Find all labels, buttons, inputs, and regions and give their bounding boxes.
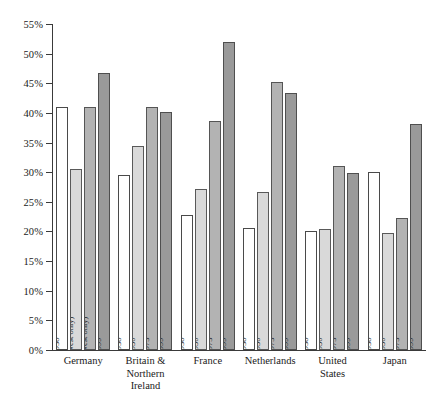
bar: 1973 — [146, 107, 158, 350]
bar: 1973 (West only) — [84, 107, 96, 350]
bar-year-label: 1973 (West only) — [84, 317, 90, 350]
bar-year-label: 1938 — [118, 338, 124, 351]
bar: 1950 — [132, 146, 144, 350]
bar: 1999 — [285, 93, 297, 350]
bar-year-label: 1999 — [347, 338, 353, 351]
y-tick-label: 25% — [23, 196, 43, 207]
y-tick-label: 5% — [29, 315, 43, 326]
bar-year-label: 1950 — [319, 338, 325, 351]
bar-year-label: 1938 — [305, 338, 311, 351]
bar: 1999 — [98, 73, 110, 350]
y-tick-label: 40% — [23, 107, 43, 118]
bar: 1950 — [319, 229, 331, 351]
category-label: France — [177, 355, 239, 393]
bar-group: 1938195019731999 — [364, 24, 426, 350]
bar-group: 19381950 (West only)1973 (West only)1999 — [52, 24, 114, 350]
bar: 1973 — [271, 82, 283, 351]
bar: 1973 — [333, 166, 345, 350]
bar: 1950 (West only) — [70, 169, 82, 350]
bar-year-label: 1973 — [333, 338, 339, 351]
bar: 1950 — [195, 189, 207, 350]
bar-year-label: 1938 — [181, 338, 187, 351]
category-axis-labels: GermanyBritain &NorthernIrelandFranceNet… — [52, 355, 426, 393]
category-label: Netherlands — [239, 355, 301, 393]
bar-year-label: 1950 — [257, 338, 263, 351]
bar-year-label: 1973 — [271, 338, 277, 351]
y-tick-label: 0% — [29, 345, 43, 356]
bar-year-label: 1973 — [396, 338, 402, 351]
bar: 1938 — [56, 107, 68, 350]
bar-chart: 55%50%45%40%35%30%25%20%15%10%5%0% 19381… — [0, 0, 432, 411]
bar-year-label: 1999 — [98, 338, 104, 351]
bar: 1999 — [410, 124, 422, 350]
bar-year-label: 1999 — [410, 338, 416, 351]
bar-year-label: 1999 — [160, 338, 166, 351]
bar-year-label: 1973 — [146, 338, 152, 351]
bar-year-label: 1950 — [382, 338, 388, 351]
bar-year-label: 1938 — [243, 338, 249, 351]
bar-group: 1938195019731999 — [239, 24, 301, 350]
bar-year-label: 1938 — [368, 338, 374, 351]
bar: 1938 — [181, 215, 193, 350]
bar: 1999 — [347, 173, 359, 350]
bar-year-label: 1950 — [132, 338, 138, 351]
bar: 1950 — [382, 233, 394, 350]
bar-year-label: 1950 (West only) — [70, 317, 76, 350]
bar-year-label: 1973 — [209, 338, 215, 351]
bar-group: 1938195019731999 — [114, 24, 176, 350]
category-label: Britain &NorthernIreland — [114, 355, 176, 393]
bar-year-label: 1999 — [285, 338, 291, 351]
bar: 1973 — [396, 218, 408, 350]
bar-groups: 19381950 (West only)1973 (West only)1999… — [52, 24, 426, 350]
bar-year-label: 1938 — [56, 338, 62, 351]
bar-group: 1938195019731999 — [177, 24, 239, 350]
bar-group: 1938195019731999 — [301, 24, 363, 350]
y-tick-label: 45% — [23, 78, 43, 89]
category-label: Japan — [364, 355, 426, 393]
bar: 1999 — [160, 112, 172, 350]
bar: 1973 — [209, 121, 221, 350]
bar: 1938 — [368, 172, 380, 350]
y-tick-label: 55% — [23, 19, 43, 30]
bar-year-label: 1999 — [223, 338, 229, 351]
category-label: UnitedStates — [301, 355, 363, 393]
bar-year-label: 1950 — [195, 338, 201, 351]
y-tick-mark — [46, 350, 52, 351]
y-tick-label: 50% — [23, 48, 43, 59]
category-label: Germany — [52, 355, 114, 393]
bar: 1999 — [223, 42, 235, 350]
y-tick-label: 35% — [23, 137, 43, 148]
y-tick-label: 10% — [23, 285, 43, 296]
bar: 1938 — [118, 175, 130, 350]
y-tick-label: 30% — [23, 167, 43, 178]
bar: 1950 — [257, 192, 269, 350]
y-tick-label: 15% — [23, 256, 43, 267]
x-axis-line — [52, 350, 426, 351]
bar: 1938 — [305, 231, 317, 350]
y-tick-label: 20% — [23, 226, 43, 237]
bar: 1938 — [243, 228, 255, 350]
